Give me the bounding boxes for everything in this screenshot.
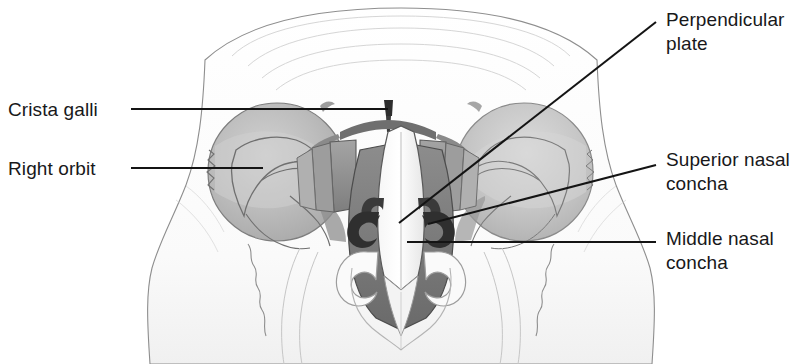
label-crista-galli: Crista galli xyxy=(8,98,98,122)
label-right-orbit: Right orbit xyxy=(8,157,96,181)
anatomy-figure: Crista galli Right orbit Perpendicular p… xyxy=(0,0,802,364)
label-perpendicular-plate: Perpendicular plate xyxy=(666,8,785,56)
label-superior-nasal-concha: Superior nasal concha xyxy=(666,148,790,196)
label-middle-nasal-concha: Middle nasal concha xyxy=(666,227,774,275)
